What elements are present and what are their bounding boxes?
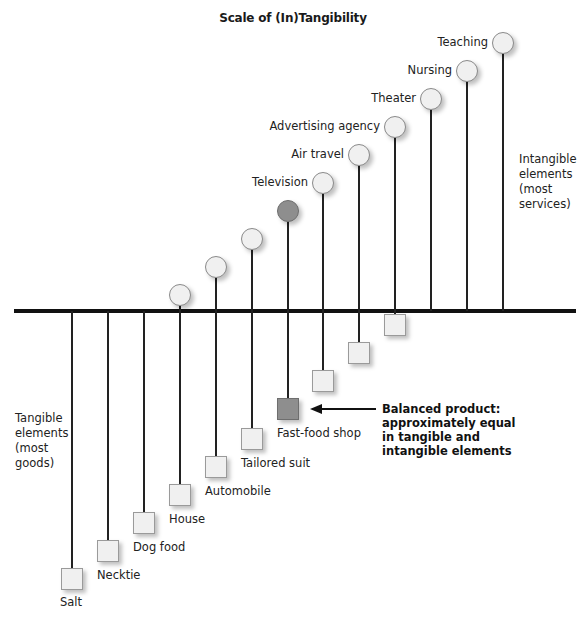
product-label: Salt <box>60 595 82 609</box>
tangible-square-icon <box>277 398 299 420</box>
product-label: Dog food <box>133 540 185 554</box>
product-label: Automobile <box>205 484 271 498</box>
product-label: Teaching <box>437 35 488 49</box>
intangible-circle-icon <box>277 200 299 222</box>
intangible-circle-icon <box>456 60 478 82</box>
intangible-stem <box>251 250 253 311</box>
arrow-icon <box>320 408 376 410</box>
tangible-elements-label: Tangible elements (most goods) <box>15 411 68 471</box>
intangible-elements-label: Intangible elements (most services) <box>519 152 577 212</box>
product-label: House <box>169 512 205 526</box>
intangible-circle-icon <box>205 256 227 278</box>
intangible-stem <box>287 222 289 311</box>
product-label: Tailored suit <box>241 456 310 470</box>
callout-line: intangible elements <box>382 444 516 458</box>
tangible-square-icon <box>348 342 370 364</box>
intangible-stem <box>430 110 432 311</box>
intangible-stem <box>322 194 324 311</box>
intangible-circle-icon <box>492 32 514 54</box>
intangible-circle-icon <box>312 172 334 194</box>
tangible-square-icon <box>312 370 334 392</box>
tangible-square-icon <box>205 456 227 478</box>
tangible-stem <box>358 311 360 342</box>
tangible-square-icon <box>133 512 155 534</box>
label-line: elements <box>15 426 68 441</box>
product-label: Nursing <box>408 63 452 77</box>
tangible-square-icon <box>384 314 406 336</box>
product-label: Necktie <box>97 568 140 582</box>
intangible-stem <box>466 82 468 311</box>
label-line: Tangible <box>15 411 68 426</box>
label-line: (most <box>519 182 577 197</box>
intangible-circle-icon <box>241 228 263 250</box>
tangible-stem <box>143 311 145 512</box>
tangible-square-icon <box>61 568 83 590</box>
intangible-stem <box>358 166 360 311</box>
diagram-title: Scale of (In)Tangibility <box>0 11 586 25</box>
label-line: Intangible <box>519 152 577 167</box>
intangible-circle-icon <box>169 284 191 306</box>
tangible-stem <box>251 311 253 428</box>
label-line: elements <box>519 167 577 182</box>
tangible-stem <box>215 311 217 456</box>
product-label: Advertising agency <box>269 119 380 133</box>
balanced-product-callout: Balanced product: approximately equal in… <box>382 402 516 458</box>
tangible-stem <box>322 311 324 370</box>
intangible-circle-icon <box>420 88 442 110</box>
product-label: Theater <box>371 91 416 105</box>
intangible-stem <box>394 138 396 311</box>
product-label: Air travel <box>291 147 344 161</box>
callout-line: Balanced product: <box>382 402 516 416</box>
intangible-circle-icon <box>384 116 406 138</box>
tangible-square-icon <box>241 428 263 450</box>
tangible-stem <box>179 311 181 484</box>
callout-line: approximately equal <box>382 416 516 430</box>
product-label: Television <box>252 175 308 189</box>
callout-line: in tangible and <box>382 430 516 444</box>
tangible-stem <box>107 311 109 540</box>
tangibility-axis <box>14 309 576 313</box>
label-line: (most <box>15 441 68 456</box>
intangible-stem <box>215 278 217 311</box>
tangible-square-icon <box>169 484 191 506</box>
tangible-stem <box>71 311 73 568</box>
intangible-circle-icon <box>348 144 370 166</box>
label-line: goods) <box>15 456 68 471</box>
intangible-stem <box>502 54 504 311</box>
tangible-stem <box>287 311 289 398</box>
product-label: Fast-food shop <box>277 426 361 440</box>
label-line: services) <box>519 197 577 212</box>
tangible-square-icon <box>97 540 119 562</box>
